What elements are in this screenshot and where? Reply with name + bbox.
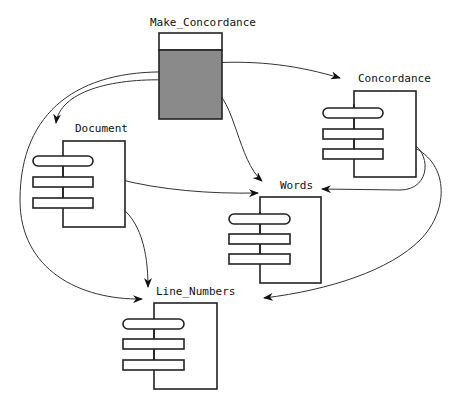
package-spec-oval: [33, 156, 93, 166]
package-spec-item: [123, 360, 184, 370]
package-spec-oval: [229, 214, 290, 224]
words-label: Words: [280, 179, 313, 192]
concordance-label: Concordance: [358, 72, 431, 85]
package-spec-oval: [123, 319, 184, 329]
package-spec-item: [123, 339, 184, 349]
package-spec-item: [229, 254, 290, 264]
node-words[interactable]: Words: [229, 179, 321, 283]
main-unit-header: [159, 33, 222, 50]
package-spec-item: [323, 149, 383, 159]
node-line-numbers[interactable]: Line_Numbers: [123, 285, 235, 389]
document-label: Document: [75, 122, 128, 135]
package-spec-item: [229, 234, 290, 244]
arrow-make-to-concordance: [210, 62, 340, 78]
line-numbers-label: Line_Numbers: [156, 285, 235, 298]
dependency-diagram: Make_Concordance Concordance Document Wo…: [0, 0, 457, 403]
package-spec-item: [323, 129, 383, 139]
make-concordance-label: Make_Concordance: [150, 16, 256, 29]
node-make-concordance[interactable]: Make_Concordance: [150, 16, 256, 119]
package-spec-oval: [323, 108, 383, 118]
arrow-document-to-words: [118, 179, 258, 193]
node-document[interactable]: Document: [33, 122, 128, 227]
main-unit-body: [159, 50, 222, 119]
package-spec-item: [33, 198, 93, 208]
arrow-make-to-document: [56, 80, 168, 123]
package-spec-item: [33, 177, 93, 187]
node-concordance[interactable]: Concordance: [323, 72, 431, 177]
